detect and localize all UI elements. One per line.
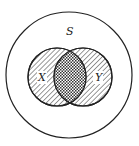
set-x-label: X <box>37 71 47 84</box>
venn-diagram: S X Y <box>0 0 139 146</box>
universe-label: S <box>66 25 74 38</box>
